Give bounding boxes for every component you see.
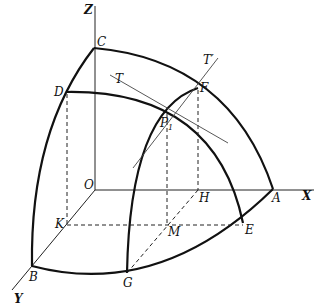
curve-DE: [67, 92, 243, 223]
label-c: C: [97, 35, 106, 49]
curve-CA: [94, 48, 273, 189]
label-g: G: [123, 276, 133, 290]
label-h: H: [198, 191, 210, 205]
label-e: E: [244, 223, 254, 237]
curve-CB: [32, 48, 94, 266]
label-y: Y: [14, 292, 24, 306]
label-k: K: [54, 217, 65, 231]
label-z: Z: [83, 3, 94, 17]
tangent-T-prime: [133, 58, 218, 168]
label-m: M: [167, 225, 181, 239]
label-x: X: [301, 189, 312, 203]
label-t: T: [115, 72, 124, 86]
y-axis: [12, 190, 95, 290]
surface-diagram: Z X Y O C D T T′ F P1 H A K M E B G: [0, 0, 322, 306]
tangent-T: [110, 75, 228, 143]
label-o: O: [84, 178, 94, 192]
label-a: A: [271, 191, 281, 205]
label-t-prime: T′: [203, 53, 214, 67]
label-b: B: [28, 270, 38, 284]
label-f: F: [199, 81, 209, 95]
label-d: D: [53, 85, 64, 99]
